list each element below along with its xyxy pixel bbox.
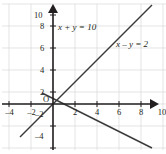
y-tick-label-4: 4 — [40, 66, 44, 75]
x-tick-label-2: 2 — [70, 108, 80, 117]
coordinate-plane-figure: –4 –2 2 4 6 8 10 O 10 8 6 4 2 –2 –4 x + … — [0, 0, 166, 154]
y-tick-label-neg4: –4 — [35, 132, 44, 141]
x-tick-label-8: 8 — [136, 108, 146, 117]
y-tick-label-8: 8 — [40, 22, 44, 31]
y-tick-label-neg2: –2 — [35, 110, 44, 119]
equation-label-line2: x – y = 2 — [116, 40, 148, 49]
y-tick-label-2: 2 — [40, 88, 44, 97]
x-tick-label-4: 4 — [92, 108, 102, 117]
x-tick-label-10: 10 — [155, 108, 166, 117]
x-tick-label-6: 6 — [114, 108, 124, 117]
y-tick-label-6: 6 — [40, 44, 44, 53]
x-tick-label-neg4: –4 — [3, 108, 16, 117]
equation-label-line1: x + y = 10 — [58, 23, 96, 32]
y-tick-label-10: 10 — [34, 11, 43, 20]
